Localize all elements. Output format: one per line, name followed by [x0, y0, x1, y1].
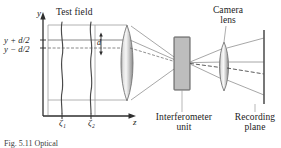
figure-root: Test field Camera lens y y + d/2 y − d/2…	[0, 0, 281, 148]
recording-plane-label: Recording plane	[229, 113, 281, 133]
image-beam	[227, 38, 264, 95]
interferometer-unit-label: Interferometer unit	[148, 113, 220, 133]
camera-lens-label: Camera lens	[205, 6, 251, 26]
recording-plane-label-line1: Recording	[235, 112, 275, 122]
z-axis-label: z	[133, 118, 137, 127]
reference-rays	[48, 40, 130, 48]
objective-lens	[121, 25, 133, 101]
interferometer-unit	[174, 37, 190, 90]
figure-caption: Fig. 5.11 Optical	[4, 139, 58, 148]
converging-beam-dashed-ray	[130, 48, 181, 64]
converging-beam	[130, 26, 181, 100]
camera-lens-label-line1: Camera	[213, 5, 243, 15]
camera-lens-leader-line	[224, 26, 226, 42]
interferometer-label-line2: unit	[176, 122, 191, 132]
image-beam-dashed-ray	[227, 68, 264, 74]
zeta-1-tick-label: ζ₁	[59, 119, 66, 128]
interferometer-label-line1: Interferometer	[156, 112, 212, 122]
d-separation-label: d	[97, 39, 101, 47]
diverging-beam-dashed-ray	[190, 63, 224, 68]
diverging-beam	[190, 48, 224, 80]
test-field-label: Test field	[56, 8, 92, 18]
figure-caption-strip: Fig. 5.11 Optical	[0, 139, 281, 148]
camera-lens-label-line2: lens	[220, 15, 236, 25]
test-field-box	[48, 25, 127, 115]
y-axis	[40, 12, 45, 116]
test-field-wavefronts	[61, 22, 92, 113]
y-axis-label: y	[37, 9, 41, 18]
y-minus-d-half-label: y − d/2	[4, 45, 30, 54]
label-leader-lines	[182, 90, 255, 112]
recording-plane-label-line2: plane	[244, 122, 265, 132]
zeta-2-tick-label: ζ₂	[88, 119, 95, 128]
